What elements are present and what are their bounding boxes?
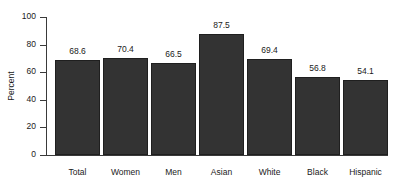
- y-axis-tick-label: 100: [10, 12, 36, 21]
- bar-value-label: 87.5: [193, 20, 250, 30]
- bar: [55, 60, 100, 155]
- y-axis-tick-mark: [40, 45, 46, 46]
- bar: [343, 80, 388, 155]
- y-axis-tick-mark: [40, 155, 46, 156]
- bar: [103, 58, 148, 155]
- y-axis-tick-mark: [40, 127, 46, 128]
- bar: [199, 34, 244, 155]
- y-axis-tick-label: 80: [10, 40, 36, 49]
- bar-value-label: 69.4: [241, 45, 298, 55]
- bar-value-label: 54.1: [337, 66, 394, 76]
- y-axis-tick-label: 60: [10, 67, 36, 76]
- y-axis-tick-label: 40: [10, 95, 36, 104]
- y-axis-tick-mark: [40, 17, 46, 18]
- x-axis-line: [46, 155, 388, 156]
- bar-value-label: 66.5: [145, 49, 202, 59]
- x-axis-category-label: Hispanic: [333, 167, 398, 177]
- bar: [247, 59, 292, 155]
- y-axis-tick-label: 0: [10, 150, 36, 159]
- y-axis-tick-mark: [40, 100, 46, 101]
- y-axis-line: [46, 17, 47, 156]
- y-axis-tick-label: 20: [10, 122, 36, 131]
- bar-chart: Percent 020406080100 68.670.466.587.569.…: [0, 0, 404, 185]
- y-axis-tick-mark: [40, 72, 46, 73]
- bar: [295, 77, 340, 155]
- bar: [151, 63, 196, 155]
